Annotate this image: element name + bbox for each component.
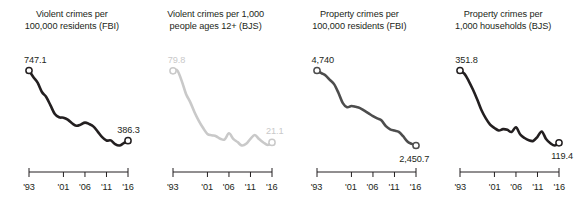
chart-panel: Violent crimes per100,000 residents (FBI… [0,0,144,206]
chart-panel: Violent crimes per 1,000people ages 12+ … [144,0,288,206]
x-axis-tick-label: '01 [345,182,357,193]
x-axis-tick-label: '16 [266,182,278,193]
start-value-label: 747.1 [24,55,47,65]
x-axis-tick-label: '16 [122,182,134,193]
x-axis-tick-label: '06 [510,182,522,193]
start-value-label: 351.8 [455,55,478,65]
trend-line [317,71,416,146]
x-axis [460,168,559,177]
x-axis-tick-label: '01 [201,182,213,193]
x-axis-tick-labels: '93'01'06'11'16 [0,182,144,196]
x-axis-tick-label: '01 [489,182,501,193]
trend-line [173,70,272,146]
crime-trends-small-multiples: Violent crimes per100,000 residents (FBI… [0,0,575,206]
x-axis-tick-label: '06 [223,182,235,193]
end-point-marker [269,139,275,145]
trend-line [460,71,559,146]
x-axis-tick-label: '16 [553,182,565,193]
end-value-label: 386.3 [117,125,140,135]
chart-panel: Property crimes per100,000 residents (FB… [288,0,432,206]
start-point-marker [313,67,319,73]
start-point-marker [170,68,176,74]
x-axis-tick-label: '11 [388,182,399,193]
sparkline-plot [288,0,432,206]
x-axis-tick-label: '93 [23,182,35,193]
end-point-marker [412,142,418,148]
end-value-label: 119.4 [551,151,573,161]
x-axis-tick-labels: '93'01'06'11'16 [431,182,575,196]
x-axis-tick-label: '93 [167,182,179,193]
x-axis-tick-label: '06 [79,182,91,193]
x-axis-tick-labels: '93'01'06'11'16 [144,182,288,196]
sparkline-plot [431,0,575,206]
sparkline-plot [0,0,144,206]
x-axis-tick-label: '01 [58,182,70,193]
trend-line [29,71,128,146]
end-value-label: 21.1 [266,126,283,136]
x-axis-tick-labels: '93'01'06'11'16 [288,182,432,196]
chart-panel: Property crimes per1,000 households (BJS… [431,0,575,206]
x-axis [173,168,272,177]
sparkline-plot [144,0,288,206]
end-value-label: 2,450.7 [399,154,429,164]
start-value-label: 4,740 [312,55,335,65]
x-axis [29,168,128,177]
start-point-marker [457,67,463,73]
end-point-marker [125,138,131,144]
start-point-marker [26,67,32,73]
x-axis-tick-label: '93 [454,182,466,193]
x-axis-tick-label: '11 [245,182,256,193]
x-axis-tick-label: '11 [101,182,112,193]
x-axis-tick-label: '16 [410,182,422,193]
start-value-label: 79.8 [168,55,185,65]
x-axis-tick-label: '93 [311,182,323,193]
x-axis [317,168,416,177]
x-axis-tick-label: '11 [532,182,543,193]
x-axis-tick-label: '06 [367,182,379,193]
end-point-marker [556,140,562,146]
